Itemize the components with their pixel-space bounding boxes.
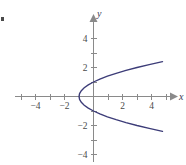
y-axis-label: y	[96, 8, 102, 19]
parabola-plot: −4−224 42−2−4 x y	[0, 0, 186, 165]
x-tick-label: 4	[149, 101, 154, 111]
x-tick-label: −2	[59, 101, 69, 111]
x-axis-arrowhead	[170, 93, 178, 101]
x-tick-label: 2	[120, 101, 125, 111]
y-tick-label: 2	[83, 63, 88, 73]
x-tick-label: −4	[30, 101, 40, 111]
y-tick-label: −2	[77, 121, 87, 131]
y-tick-label: −4	[77, 150, 87, 160]
math-figure: −4−224 42−2−4 x y	[0, 0, 186, 165]
x-axis-tick-labels: −4−224	[30, 101, 154, 111]
y-tick-label: 4	[83, 34, 88, 44]
x-axis-label: x	[178, 91, 184, 102]
